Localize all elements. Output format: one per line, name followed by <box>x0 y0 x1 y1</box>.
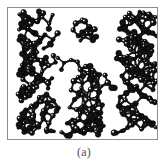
figure-panel-a: (a) <box>0 0 168 166</box>
simulation-frame <box>7 7 158 140</box>
particle-aggregate-plot <box>8 8 157 139</box>
figure-caption: (a) <box>0 144 168 160</box>
